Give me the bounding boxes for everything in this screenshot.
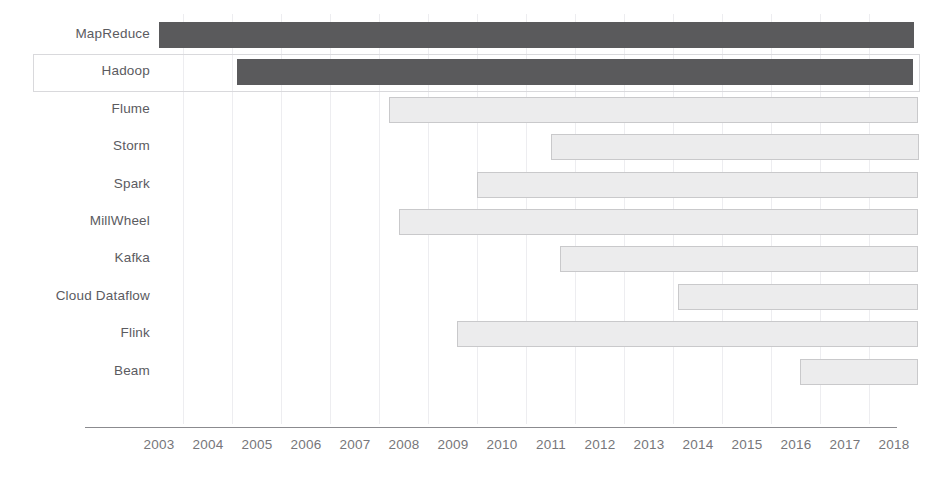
x-axis-tick-label: 2011 bbox=[536, 437, 566, 452]
x-axis-tick-label: 2016 bbox=[781, 437, 812, 452]
row-label-flink: Flink bbox=[0, 325, 150, 340]
row-label-spark: Spark bbox=[0, 176, 150, 191]
row-label-hadoop: Hadoop bbox=[0, 63, 150, 78]
timeline-bar-storm[interactable] bbox=[551, 134, 919, 160]
row-label-kafka: Kafka bbox=[0, 250, 150, 265]
timeline-bar-flume[interactable] bbox=[389, 97, 918, 123]
row-label-cloud-dataflow: Cloud Dataflow bbox=[0, 288, 150, 303]
timeline-row[interactable]: Kafka bbox=[0, 246, 939, 272]
timeline-bar-flink[interactable] bbox=[457, 321, 918, 347]
x-axis-tick-label: 2006 bbox=[291, 437, 322, 452]
x-axis-tick-label: 2008 bbox=[389, 437, 420, 452]
x-axis-tick-label: 2015 bbox=[732, 437, 763, 452]
timeline-row[interactable]: Storm bbox=[0, 134, 939, 160]
timeline-row[interactable]: Cloud Dataflow bbox=[0, 284, 939, 310]
x-axis-tick-label: 2018 bbox=[879, 437, 910, 452]
timeline-bar-millwheel[interactable] bbox=[399, 209, 918, 235]
gantt-timeline-chart: MapReduceHadoopFlumeStormSparkMillWheelK… bbox=[0, 0, 939, 481]
timeline-row[interactable]: Hadoop bbox=[0, 59, 939, 85]
timeline-row[interactable]: Beam bbox=[0, 359, 939, 385]
row-label-millwheel: MillWheel bbox=[0, 213, 150, 228]
timeline-bar-cloud-dataflow[interactable] bbox=[678, 284, 918, 310]
row-label-flume: Flume bbox=[0, 101, 150, 116]
plot-area: MapReduceHadoopFlumeStormSparkMillWheelK… bbox=[0, 0, 939, 481]
x-axis-tick-label: 2009 bbox=[438, 437, 469, 452]
row-label-beam: Beam bbox=[0, 363, 150, 378]
timeline-bar-spark[interactable] bbox=[477, 172, 918, 198]
x-axis-line bbox=[85, 427, 897, 428]
timeline-row[interactable]: Flume bbox=[0, 97, 939, 123]
row-label-storm: Storm bbox=[0, 138, 150, 153]
x-axis-tick-label: 2005 bbox=[242, 437, 273, 452]
timeline-bar-kafka[interactable] bbox=[560, 246, 918, 272]
x-axis-tick-label: 2012 bbox=[585, 437, 616, 452]
timeline-row[interactable]: MillWheel bbox=[0, 209, 939, 235]
x-axis-tick-label: 2013 bbox=[634, 437, 665, 452]
timeline-row[interactable]: Flink bbox=[0, 321, 939, 347]
timeline-row[interactable]: Spark bbox=[0, 172, 939, 198]
timeline-bar-beam[interactable] bbox=[800, 359, 918, 385]
row-label-mapreduce: MapReduce bbox=[0, 26, 150, 41]
x-axis-tick-label: 2010 bbox=[487, 437, 518, 452]
x-axis-tick-label: 2003 bbox=[144, 437, 175, 452]
x-axis-tick-label: 2007 bbox=[340, 437, 371, 452]
timeline-bar-hadoop[interactable] bbox=[237, 59, 913, 85]
x-axis-tick-label: 2017 bbox=[830, 437, 861, 452]
x-axis-tick-label: 2004 bbox=[193, 437, 224, 452]
timeline-row[interactable]: MapReduce bbox=[0, 22, 939, 48]
x-axis-tick-label: 2014 bbox=[683, 437, 714, 452]
timeline-bar-mapreduce[interactable] bbox=[159, 22, 914, 48]
